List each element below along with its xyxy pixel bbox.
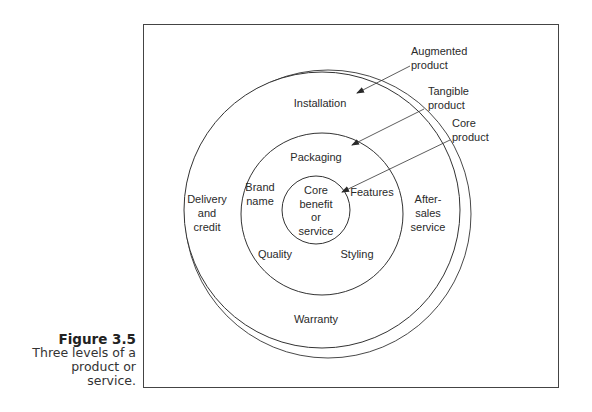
figure-number: Figure 3.5 xyxy=(32,332,136,346)
features-label: Features xyxy=(350,186,394,198)
caption-line: service. xyxy=(32,374,136,388)
packaging-label: Packaging xyxy=(290,151,341,163)
caption-line: product or xyxy=(32,360,136,374)
figure-caption: Figure 3.5 Three levels of a product or … xyxy=(32,332,136,388)
tangible-product-label: Tangibleproduct xyxy=(428,85,469,111)
core-product-label: Coreproduct xyxy=(452,117,489,143)
augmented-product-label: Augmentedproduct xyxy=(411,45,467,71)
warranty-label: Warranty xyxy=(294,313,339,325)
caption-line: Three levels of a xyxy=(32,346,136,360)
installation-label: Installation xyxy=(294,97,347,109)
quality-label: Quality xyxy=(258,248,293,260)
styling-label: Styling xyxy=(340,248,373,260)
after-sales-service-label: After-salesservice xyxy=(411,193,446,233)
